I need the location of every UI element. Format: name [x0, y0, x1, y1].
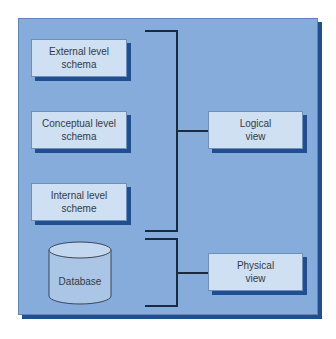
database-cylinder-icon — [0, 0, 336, 339]
database-label: Database — [49, 276, 111, 287]
